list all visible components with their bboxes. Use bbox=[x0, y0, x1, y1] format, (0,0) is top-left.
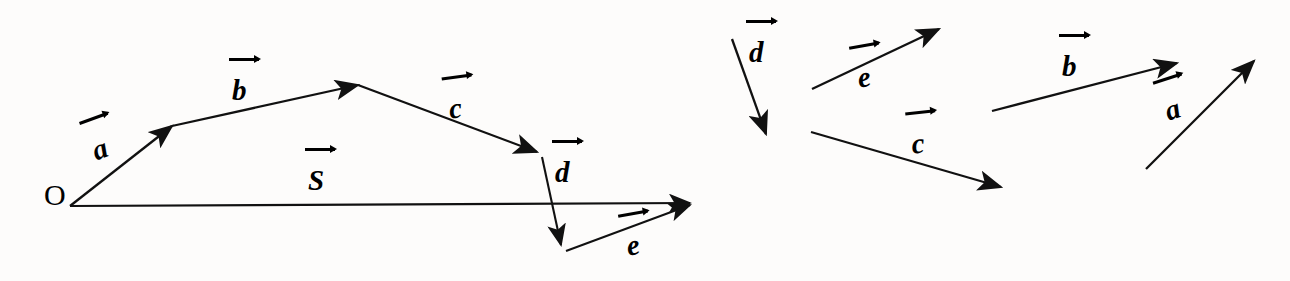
vector-arrow-right-b bbox=[992, 63, 1177, 111]
vector-overarrow-icon bbox=[229, 58, 259, 61]
vector-label-glyph: b bbox=[1062, 52, 1077, 81]
vector-label-glyph: b bbox=[232, 76, 247, 105]
vector-overarrow-icon bbox=[1059, 34, 1089, 37]
origin-point-label: O bbox=[44, 180, 66, 210]
vector-arrow-left-b bbox=[172, 85, 358, 126]
vector-arrow-left-S bbox=[70, 203, 690, 206]
vector-label-glyph: d bbox=[555, 158, 570, 187]
vector-label-glyph: S bbox=[308, 166, 324, 195]
vector-overarrow-icon bbox=[746, 20, 776, 23]
vector-label-glyph: d bbox=[749, 38, 764, 67]
vector-diagram-figure: O abcdeSdecba bbox=[0, 0, 1290, 281]
vector-overarrow-icon bbox=[552, 140, 582, 143]
vector-label-left-d: d bbox=[555, 158, 570, 187]
vector-label-right-b: b bbox=[1062, 52, 1077, 81]
vector-label-glyph: c bbox=[910, 129, 926, 159]
vector-label-right-d: d bbox=[749, 38, 764, 67]
vector-arrow-left-a bbox=[70, 126, 172, 206]
vector-arrows-canvas bbox=[0, 0, 1290, 281]
vector-arrow-right-c bbox=[811, 132, 1001, 187]
vector-overarrow-icon bbox=[305, 148, 335, 151]
vector-label-left-S: S bbox=[308, 166, 324, 195]
vector-label-left-b: b bbox=[232, 76, 247, 105]
vector-arrow-right-a bbox=[1146, 61, 1254, 169]
vector-label-right-c: c bbox=[910, 129, 926, 159]
